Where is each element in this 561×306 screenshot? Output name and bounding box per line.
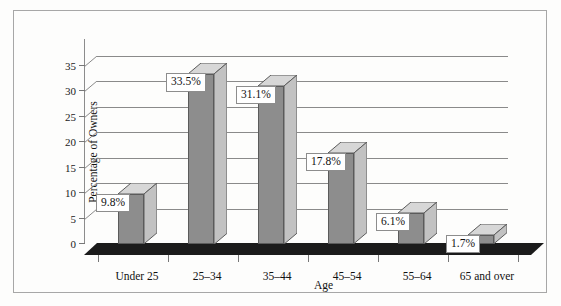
y-tick-mark — [79, 141, 85, 142]
x-tick-label: 55–64 — [403, 270, 432, 282]
bar-data-label: 31.1% — [236, 86, 276, 104]
y-tick-mark — [79, 218, 85, 219]
bar-data-label: 1.7% — [446, 235, 480, 253]
y-tick-mark — [79, 90, 85, 91]
bar — [118, 183, 144, 244]
x-tick-label: 65 and over — [460, 270, 514, 282]
axes: 05101520253035 9.8%33.5%31.1%17.8%6.1%1.… — [84, 39, 544, 271]
bar-front-face — [188, 74, 214, 244]
y-tick-mark — [79, 167, 85, 168]
y-tick-label: 20 — [54, 136, 76, 148]
bar-side-face — [424, 202, 437, 244]
x-tick-label: 35–44 — [263, 270, 292, 282]
gridline — [84, 56, 508, 67]
x-tick-mark — [448, 255, 449, 262]
bar-side-face — [354, 142, 367, 244]
bar-data-label: 17.8% — [306, 153, 346, 171]
x-tick-mark — [238, 255, 239, 262]
y-tick-mark — [79, 116, 85, 117]
chart-figure: Percentage of Owners Age 05101520253035 … — [0, 0, 561, 306]
y-tick-mark — [79, 192, 85, 193]
x-tick-mark — [308, 255, 309, 262]
x-tick-label: Under 25 — [115, 270, 158, 282]
y-tick-label: 10 — [54, 187, 76, 199]
x-tick-mark — [518, 255, 519, 262]
bar-front-face — [258, 86, 284, 244]
bar-data-label: 33.5% — [166, 73, 206, 91]
y-tick-label: 5 — [54, 213, 76, 225]
y-tick-label: 30 — [54, 85, 76, 97]
y-tick-label: 25 — [54, 111, 76, 123]
bar-side-face — [284, 75, 297, 244]
chart-frame: Percentage of Owners Age 05101520253035 … — [13, 10, 547, 293]
bar-side-face — [494, 224, 507, 244]
x-tick-mark — [168, 255, 169, 262]
y-tick-mark — [79, 65, 85, 66]
bar-side-face — [144, 183, 157, 244]
x-tick-mark — [378, 255, 379, 262]
x-tick-mark — [98, 255, 99, 262]
bar-data-label: 9.8% — [96, 194, 130, 212]
x-tick-label: 25–34 — [193, 270, 222, 282]
x-axis-title: Age — [314, 279, 333, 291]
bar-data-label: 6.1% — [376, 213, 410, 231]
x-tick-label: 45–54 — [333, 270, 362, 282]
plot-area: 05101520253035 9.8%33.5%31.1%17.8%6.1%1.… — [84, 39, 544, 271]
y-tick-label: 15 — [54, 162, 76, 174]
y-tick-label: 35 — [54, 60, 76, 72]
bar-side-face — [214, 63, 227, 244]
y-tick-label: 0 — [54, 238, 76, 250]
